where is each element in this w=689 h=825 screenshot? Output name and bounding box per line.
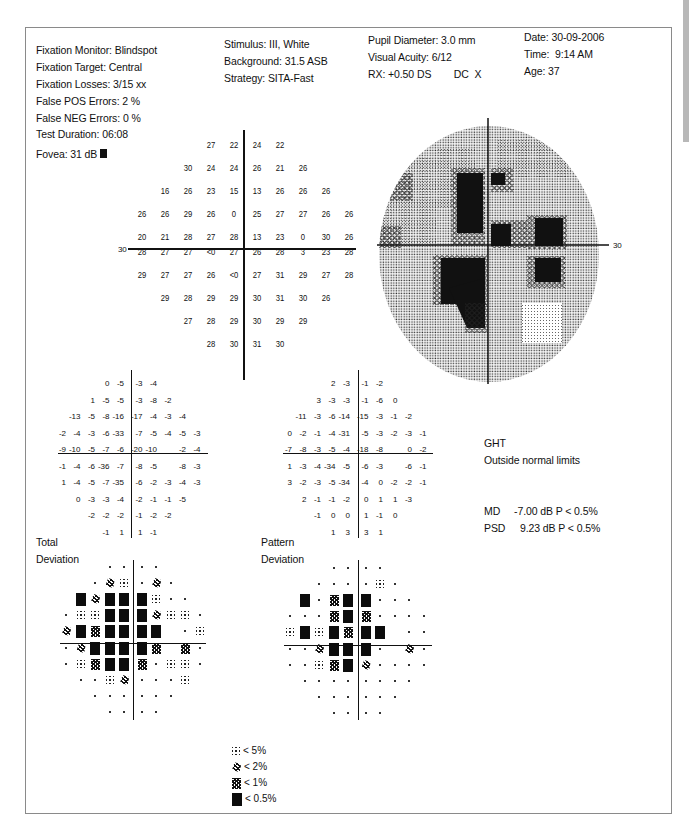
- pdp-dot-icon: [418, 643, 430, 655]
- pd-value: -1: [407, 462, 427, 472]
- tdp-dot-icon: [150, 690, 162, 702]
- pdp-p05-icon: [329, 626, 339, 639]
- tdp-p05-icon: [76, 593, 86, 606]
- threshold-value: 26: [201, 209, 221, 219]
- pdp-dot-icon: [389, 610, 401, 622]
- pdp-dot-icon: [374, 643, 386, 655]
- fixation-losses: Fixation Losses: 3/15 xx: [36, 78, 146, 91]
- pdp-dot-icon: [328, 562, 340, 574]
- pdp-dot-icon: [360, 562, 372, 574]
- psd-label: PSD: [484, 522, 505, 535]
- pd-value: -3: [392, 495, 412, 505]
- threshold-value: 16: [155, 186, 175, 196]
- pdp-dot-icon: [299, 675, 311, 687]
- tdp-dot-icon: [136, 577, 148, 589]
- threshold-value: 26: [316, 186, 336, 196]
- pdp-dot-icon: [403, 594, 415, 606]
- pdp-p5-icon: [315, 661, 323, 669]
- td-value: -4: [137, 379, 157, 389]
- td-value: -5: [104, 396, 124, 406]
- stimulus: Stimulus: III, White: [224, 38, 310, 51]
- threshold-value: 22: [270, 140, 290, 150]
- tdp-p05-icon: [119, 625, 129, 638]
- test-duration: Test Duration: 06:08: [36, 128, 128, 141]
- pdp-dot-icon: [389, 691, 401, 703]
- probability-2pct-icon: [232, 762, 241, 772]
- threshold-value: 30: [178, 163, 198, 173]
- legend-item-1pct: < 1%: [232, 777, 267, 789]
- threshold-value: 20: [132, 232, 152, 242]
- pdp-dot-icon: [313, 594, 325, 606]
- tdp-dot-icon: [118, 561, 130, 573]
- pdp-dot-icon: [360, 578, 372, 590]
- pdp-dot-icon: [284, 659, 296, 671]
- threshold-value: 26: [247, 163, 267, 173]
- fovea-marker-icon: [100, 149, 107, 158]
- tdp-dot-icon: [165, 690, 177, 702]
- pd-value: -5: [330, 462, 350, 472]
- threshold-value: 30: [270, 339, 290, 349]
- threshold-value: 26: [316, 293, 336, 303]
- tdp-p1-icon: [181, 643, 190, 654]
- tdp-dot-icon: [150, 674, 162, 686]
- pdp-dot-icon: [403, 659, 415, 671]
- tdp-p05-icon: [119, 609, 129, 622]
- pdp-dot-icon: [342, 675, 354, 687]
- threshold-value: 27: [316, 270, 336, 280]
- pdp-p05-icon: [300, 594, 310, 607]
- threshold-value: 29: [293, 270, 313, 280]
- tdp-p05-icon: [105, 658, 115, 671]
- threshold-value: 29: [201, 293, 221, 303]
- pdp-p05-icon: [329, 643, 339, 656]
- pdp-p1-icon: [330, 660, 339, 671]
- tdp-dot-icon: [194, 642, 206, 654]
- threshold-value: 30: [293, 293, 313, 303]
- td-value: -3: [181, 478, 201, 488]
- td-value: -3: [181, 429, 201, 439]
- pdp-p05-icon: [343, 659, 353, 672]
- threshold-value: 26: [339, 232, 359, 242]
- tdp-p05-icon: [137, 642, 147, 655]
- td-value: -4: [104, 495, 124, 505]
- pdp-p1-icon: [330, 595, 339, 606]
- false-pos-errors: False POS Errors: 2 %: [36, 95, 140, 108]
- pd-value: -2: [330, 495, 350, 505]
- pupil-diameter: Pupil Diameter: 3.0 mm: [368, 34, 476, 47]
- threshold-value: 21: [270, 163, 290, 173]
- threshold-value: 27: [224, 247, 244, 257]
- pdp-p05-icon: [361, 643, 371, 656]
- td-value: -2: [104, 511, 124, 521]
- pattern-deviation-label: Pattern: [261, 536, 294, 549]
- threshold-value: 27: [155, 270, 175, 280]
- tdp-p5-icon: [167, 611, 175, 619]
- tdp-p05-icon: [119, 593, 129, 606]
- legend-item-5pct: < 5%: [232, 745, 266, 757]
- pdp-dot-icon: [328, 578, 340, 590]
- pdp-p05-icon: [343, 594, 353, 607]
- probability-1pct-icon: [232, 778, 241, 789]
- tdp-p05-icon: [76, 625, 86, 638]
- threshold-value: 29: [270, 316, 290, 326]
- pdp-p1-icon: [344, 627, 353, 638]
- threshold-value: 28: [201, 339, 221, 349]
- td-value: -4: [166, 412, 186, 422]
- pdp-p05-icon: [343, 610, 353, 623]
- tdp-dot-icon: [136, 690, 148, 702]
- pdp-dot-icon: [374, 691, 386, 703]
- td-value: 1: [104, 528, 124, 538]
- threshold-value: 23: [316, 247, 336, 257]
- threshold-value: 29: [224, 316, 244, 326]
- pdp-dot-icon: [328, 691, 340, 703]
- threshold-value: 28: [132, 247, 152, 257]
- threshold-value: 27: [201, 232, 221, 242]
- threshold-value: 27: [247, 270, 267, 280]
- legend-item-2pct: < 2%: [232, 761, 267, 773]
- threshold-value: 21: [155, 232, 175, 242]
- threshold-value: 26: [201, 270, 221, 280]
- tdp-dot-icon: [165, 674, 177, 686]
- background: Background: 31.5 ASB: [224, 55, 328, 68]
- fovea-value: Fovea: 31 dB: [36, 148, 97, 161]
- threshold-value: 28: [339, 247, 359, 257]
- tdp-p5-icon: [167, 660, 175, 668]
- pdp-dot-icon: [313, 675, 325, 687]
